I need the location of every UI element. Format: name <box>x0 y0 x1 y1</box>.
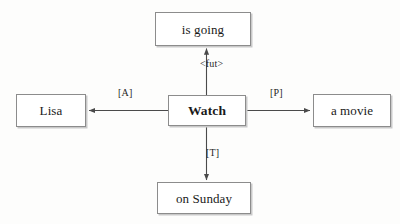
edge-label-patient: [P] <box>270 88 283 98</box>
edge-label-agent: [A] <box>118 88 132 98</box>
edge-label-fut: <fut> <box>200 59 223 69</box>
node-watch[interactable]: Watch <box>168 95 246 126</box>
node-a-movie[interactable]: a movie <box>313 94 391 127</box>
semantic-role-diagram: is going Lisa Watch a movie on Sunday <f… <box>0 0 400 224</box>
node-lisa[interactable]: Lisa <box>16 94 86 127</box>
node-is-going[interactable]: is going <box>155 12 251 46</box>
edge-label-time: [T] <box>206 148 219 158</box>
node-on-sunday[interactable]: on Sunday <box>157 182 251 214</box>
